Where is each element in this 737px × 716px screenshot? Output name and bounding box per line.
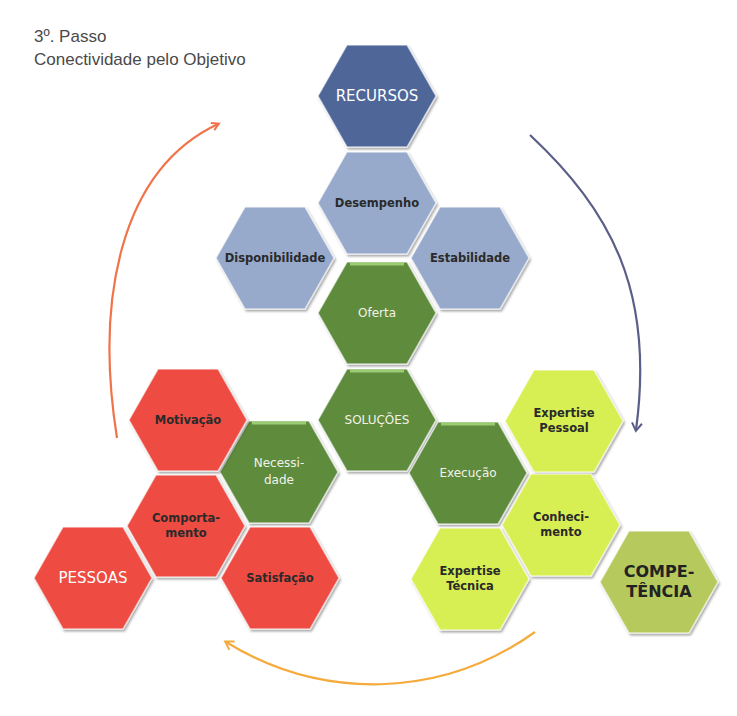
hexagon-label: mento [540, 525, 581, 539]
hexagon-label: COMPE- [624, 562, 695, 581]
hexagon-label: Necessi- [254, 456, 305, 470]
hexagon-competencia: COMPE-TÊNCIA [600, 531, 718, 633]
hexagon-recursos: RECURSOS [318, 45, 436, 147]
hexagon-label: Técnica [446, 579, 494, 593]
hexagon-label: TÊNCIA [626, 582, 692, 601]
hexagon-satisfacao: Satisfação [221, 527, 339, 629]
hexagon-label: Disponibilidade [225, 251, 326, 265]
hexagon-label: PESSOAS [59, 569, 128, 587]
hexagon-conhecimento: Conheci-mento [502, 474, 620, 576]
hexagon-label: mento [165, 526, 206, 540]
hexagon-label: Estabilidade [430, 251, 510, 265]
hexagon-label: Satisfação [246, 571, 314, 585]
arrow-competencia-to-pessoas [226, 632, 535, 684]
hexagon-label: SOLUÇÕES [345, 412, 410, 427]
hexagon-disponibilidade: Disponibilidade [216, 207, 334, 309]
hexagon-expertise-tecnica: ExpertiseTécnica [411, 528, 529, 630]
hexagon-comportamento: Comporta-mento [127, 475, 245, 577]
hexagon-diagram: RECURSOSDesempenhoDisponibilidadeEstabil… [0, 0, 737, 716]
hexagon-label: Oferta [358, 306, 396, 320]
hexagon-desempenho: Desempenho [318, 152, 436, 254]
hexagon-oferta: Oferta [318, 262, 436, 364]
hexagon-label: Motivação [155, 413, 222, 427]
hexagon-label: Pessoal [539, 421, 589, 435]
hexagon-label: Comporta- [152, 511, 220, 525]
hexagon-estabilidade: Estabilidade [411, 207, 529, 309]
hexagon-label: Execução [439, 466, 496, 480]
hexagon-pessoas: PESSOAS [34, 527, 152, 629]
hexagon-label: Expertise [533, 406, 594, 420]
hexagon-label: dade [264, 473, 294, 487]
hexagon-expertise-pessoal: ExpertisePessoal [505, 370, 623, 472]
hexagon-label: Conheci- [533, 510, 589, 524]
hexagon-label: Desempenho [335, 196, 419, 210]
hexagon-label: Expertise [439, 564, 500, 578]
hexagon-label: RECURSOS [336, 87, 419, 105]
